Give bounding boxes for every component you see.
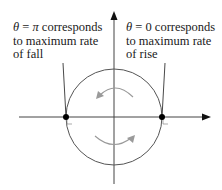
right-angle-mark-left xyxy=(67,119,72,124)
rotation-arrow-lower-icon xyxy=(95,135,135,145)
y-axis-arrow-icon xyxy=(111,11,118,20)
label-right-line1: θ = 0 corresponds xyxy=(126,21,215,35)
label-text: corresponds xyxy=(39,20,103,34)
point-theta-0 xyxy=(159,114,165,120)
label-right-line3: of rise xyxy=(126,48,215,62)
label-left-line3: of fall xyxy=(13,48,102,62)
label-text: corresponds xyxy=(152,20,216,34)
right-angle-mark-right xyxy=(163,119,168,124)
equals-sign: = xyxy=(19,20,32,34)
y-axis xyxy=(111,11,118,184)
x-axis-arrow-icon xyxy=(202,114,211,121)
label-theta-0: θ = 0 corresponds to maximum rate of ris… xyxy=(126,21,215,62)
label-left-line1: θ = π corresponds xyxy=(13,21,102,35)
x-axis xyxy=(19,114,211,121)
point-theta-pi xyxy=(63,114,69,120)
label-left-line2: to maximum rate xyxy=(13,35,102,49)
tangent-line-left xyxy=(63,63,66,117)
equals-sign: = xyxy=(132,20,145,34)
label-right-line2: to maximum rate xyxy=(126,35,215,49)
label-theta-pi: θ = π corresponds to maximum rate of fal… xyxy=(13,21,102,62)
tangent-line-right xyxy=(162,63,165,117)
